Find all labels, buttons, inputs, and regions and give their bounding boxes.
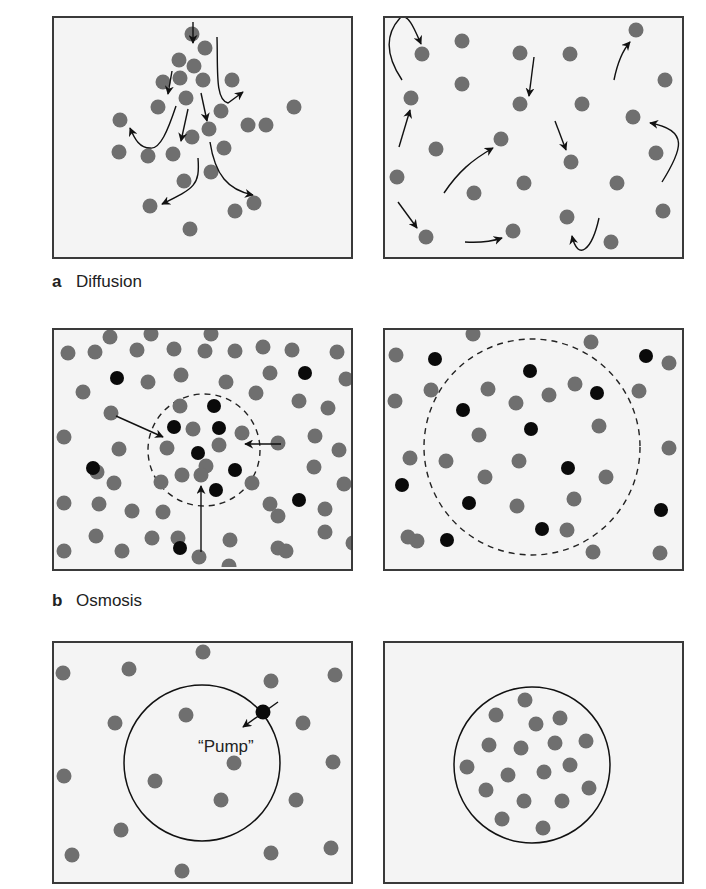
panel-active-transport-after: [383, 641, 684, 884]
caption-osmosis: bOsmosis: [52, 591, 142, 611]
panel-active-transport-before: [52, 641, 353, 884]
caption-title: Osmosis: [76, 591, 142, 610]
panel-diffusion-concentrated: [52, 16, 353, 259]
panel-osmosis-concentrated: [52, 328, 353, 571]
caption-letter: a: [52, 272, 76, 292]
panel-diffusion-dispersed: [383, 16, 684, 259]
caption-title: Diffusion: [76, 272, 142, 291]
caption-diffusion: aDiffusion: [52, 272, 142, 292]
panel-osmosis-dispersed: [383, 328, 684, 571]
caption-letter: b: [52, 591, 76, 611]
